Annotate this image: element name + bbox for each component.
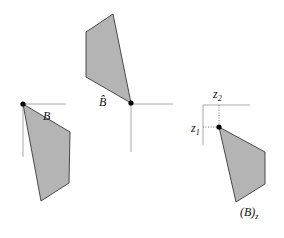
polygon-b-hat [86, 14, 131, 103]
translated-point [216, 124, 221, 129]
origin-point [128, 100, 133, 105]
label-z1: z1 [190, 121, 200, 137]
panel-b-hat: B̂ [86, 14, 173, 152]
label-b-hat: B̂ [99, 95, 107, 109]
origin-point [20, 101, 25, 106]
diagram-canvas: B B̂ z2 z1 (B)z [0, 0, 284, 238]
polygon-b-z [219, 127, 265, 202]
panel-b-z: z2 z1 (B)z [190, 87, 265, 221]
label-b: B [43, 109, 51, 123]
label-z2: z2 [212, 87, 222, 103]
panel-b: B [20, 101, 70, 201]
label-b-z: (B)z [240, 205, 259, 221]
